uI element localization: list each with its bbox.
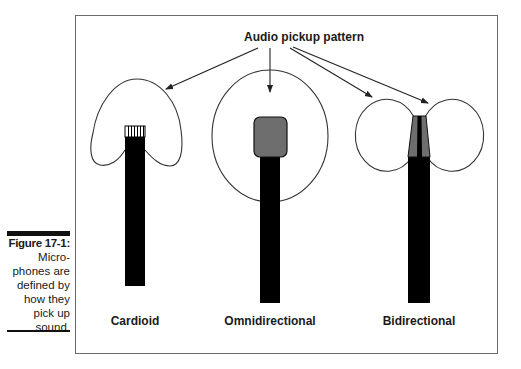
bidirectional-mic-body	[408, 156, 430, 303]
arrow-to-bidirectional-right	[293, 47, 428, 103]
omnidirectional-mic-body	[260, 150, 280, 303]
bidirectional-lobe-right	[425, 99, 484, 171]
microphone-diagram: Audio pickup pattern Cardioid Omnidirect…	[0, 0, 521, 369]
diagram-title: Audio pickup pattern	[244, 30, 364, 44]
bidirectional-lobe-left	[355, 99, 414, 171]
arrow-to-cardioid	[166, 48, 258, 89]
cardioid-label: Cardioid	[111, 314, 160, 328]
bidirectional-head-stripe	[417, 116, 422, 157]
arrow-to-bidirectional-left	[290, 48, 372, 97]
cardioid-microphone: Cardioid	[91, 79, 182, 328]
pointer-arrows	[166, 47, 428, 103]
omnidirectional-microphone: Omnidirectional	[212, 70, 328, 328]
omnidirectional-mic-head	[254, 117, 287, 157]
bidirectional-label: Bidirectional	[383, 314, 456, 328]
omnidirectional-label: Omnidirectional	[224, 314, 315, 328]
cardioid-mic-body	[125, 126, 145, 286]
bidirectional-microphone: Bidirectional	[355, 99, 483, 328]
